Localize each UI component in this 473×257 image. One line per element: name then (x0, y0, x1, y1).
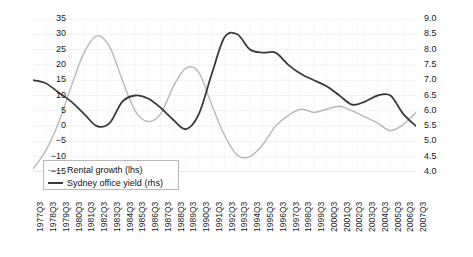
y-right-tick-10: 4.0 (424, 167, 437, 176)
y-right-tick-9: 4.5 (424, 152, 437, 161)
y-right-tick-1: 8.5 (424, 29, 437, 38)
x-tick-1983Q3: 1983Q3 (113, 202, 122, 232)
x-tick-1993Q3: 1993Q3 (240, 202, 249, 232)
y-left-tick-6: 5 (61, 106, 66, 115)
x-tick-2001Q3: 2001Q3 (343, 202, 352, 232)
x-tick-1982Q3: 1982Q3 (100, 202, 109, 232)
x-tick-1992Q3: 1992Q3 (228, 202, 237, 232)
plot-area (33, 19, 416, 172)
y-left-tick-8: −5 (56, 136, 66, 145)
y-right-tick-5: 6.5 (424, 91, 437, 100)
x-tick-1978Q3: 1978Q3 (49, 202, 58, 232)
x-tick-1995Q3: 1995Q3 (266, 202, 275, 232)
y-right-tick-8: 5.0 (424, 136, 437, 145)
x-tick-1986Q3: 1986Q3 (151, 202, 160, 232)
y-left-tick-10: −15 (51, 167, 66, 176)
y-right-tick-3: 7.5 (424, 60, 437, 69)
x-tick-1977Q3: 1977Q3 (36, 202, 45, 232)
legend-item-rental-growth: Rental growth (lhs) (48, 164, 174, 176)
x-tick-1991Q3: 1991Q3 (215, 202, 224, 232)
y-left-tick-7: 0 (61, 121, 66, 130)
x-tick-1980Q3: 1980Q3 (75, 202, 84, 232)
x-tick-2004Q3: 2004Q3 (381, 202, 390, 232)
x-tick-2007Q3: 2007Q3 (419, 202, 428, 232)
x-tick-1998Q3: 1998Q3 (304, 202, 313, 232)
y-left-tick-9: −10 (51, 152, 66, 161)
x-tick-1996Q3: 1996Q3 (279, 202, 288, 232)
y-left-tick-2: 25 (56, 45, 66, 54)
y-left-tick-5: 10 (56, 91, 66, 100)
legend-label-rental-growth: Rental growth (lhs) (67, 165, 143, 175)
x-tick-1994Q3: 1994Q3 (253, 202, 262, 232)
legend-item-sydney-office-yield: Sydney office yield (rhs) (48, 177, 174, 189)
legend-swatch-sydney-office-yield (48, 182, 63, 184)
x-tick-2000Q3: 2000Q3 (330, 202, 339, 232)
y-left-tick-3: 20 (56, 60, 66, 69)
series-canvas (33, 19, 416, 172)
x-tick-1979Q3: 1979Q3 (62, 202, 71, 232)
x-tick-2006Q3: 2006Q3 (406, 202, 415, 232)
x-tick-1987Q3: 1987Q3 (164, 202, 173, 232)
y-right-tick-4: 7.0 (424, 75, 437, 84)
x-tick-1988Q3: 1988Q3 (177, 202, 186, 232)
x-tick-1990Q3: 1990Q3 (202, 202, 211, 232)
x-tick-1985Q3: 1985Q3 (138, 202, 147, 232)
y-left-tick-0: 35 (56, 14, 66, 23)
y-left-tick-1: 30 (56, 29, 66, 38)
x-tick-1984Q3: 1984Q3 (126, 202, 135, 232)
y-right-tick-6: 6.0 (424, 106, 437, 115)
x-tick-1981Q3: 1981Q3 (87, 202, 96, 232)
y-right-tick-0: 9.0 (424, 14, 437, 23)
y-right-tick-7: 5.5 (424, 121, 437, 130)
x-tick-1989Q3: 1989Q3 (189, 202, 198, 232)
x-tick-2005Q3: 2005Q3 (394, 202, 403, 232)
x-tick-2003Q3: 2003Q3 (368, 202, 377, 232)
legend-label-sydney-office-yield: Sydney office yield (rhs) (67, 178, 163, 188)
y-right-tick-2: 8.0 (424, 45, 437, 54)
x-tick-2002Q3: 2002Q3 (355, 202, 364, 232)
x-tick-1999Q3: 1999Q3 (317, 202, 326, 232)
chart-figure: Rental growth (lhs) Sydney office yield … (0, 0, 473, 257)
y-left-tick-4: 15 (56, 75, 66, 84)
x-tick-1997Q3: 1997Q3 (292, 202, 301, 232)
